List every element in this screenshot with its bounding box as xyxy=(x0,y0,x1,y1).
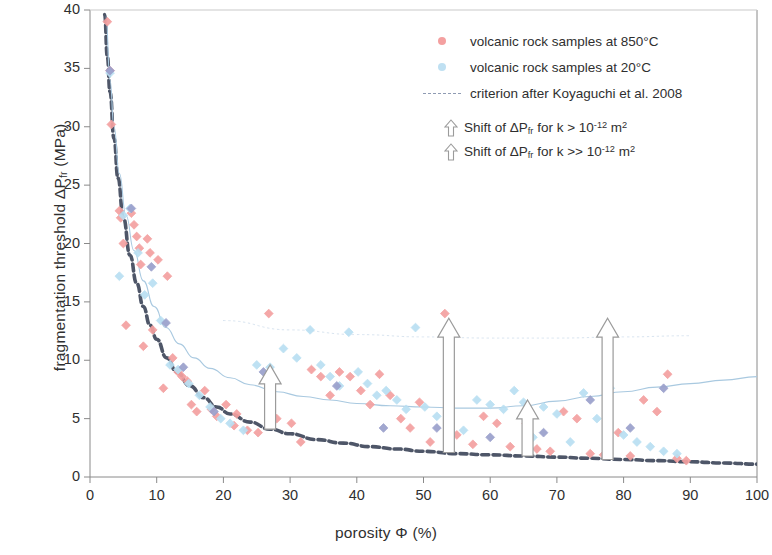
legend-item-label: criterion after Koyaguchi et al. 2008 xyxy=(468,86,682,101)
legend-dashed-line-icon xyxy=(423,93,461,94)
legend-arrow-exponent: -12 xyxy=(602,144,615,154)
x-tick-label: 10 xyxy=(132,487,182,503)
x-tick-label: 100 xyxy=(732,487,772,503)
legend-arrow-item[interactable]: Shift of ΔPfr for k >> 10-12 m2 xyxy=(438,140,756,164)
legend-arrow-suffix: m xyxy=(615,144,630,159)
legend-item[interactable]: volcanic rock samples at 850°C xyxy=(416,28,756,54)
y-axis-title-prefix: fragmentation threshold xyxy=(51,199,68,371)
legend-up-arrow-icon xyxy=(438,143,464,161)
legend-item-label: volcanic rock samples at 20°C xyxy=(468,60,651,75)
legend-arrow-label: Shift of ΔPfr for k >> 10-12 m2 xyxy=(464,144,635,160)
legend-arrow-middle: for k >> 10 xyxy=(533,144,601,159)
legend-arrow-exponent: -12 xyxy=(594,120,607,130)
legend-arrow-suffix: m xyxy=(607,120,622,135)
legend-arrow-middle: for k > 10 xyxy=(533,120,593,135)
x-axis-title-suffix: (%) xyxy=(408,524,437,541)
figure-container: 05101520253035400102030405060708090100 f… xyxy=(0,0,772,555)
legend-marker-key xyxy=(416,63,468,71)
legend-line-key xyxy=(416,93,468,94)
x-axis-title-prefix: porosity xyxy=(335,524,395,541)
legend-marker-key xyxy=(416,37,468,45)
y-axis-title: fragmentation threshold ΔPfr (MPa) xyxy=(51,37,70,457)
legend-arrow-item[interactable]: Shift of ΔPfr for k > 10-12 m2 xyxy=(438,116,756,140)
legend-arrow-prefix: Shift of xyxy=(464,120,510,135)
legend-arrow-unit-exponent: 2 xyxy=(622,120,627,130)
y-tick-label: 0 xyxy=(36,468,80,484)
chart-legend: volcanic rock samples at 850°Cvolcanic r… xyxy=(416,28,756,164)
legend-arrow-unit-exponent: 2 xyxy=(630,144,635,154)
x-axis-title: porosity Φ (%) xyxy=(0,524,772,542)
legend-dot-icon xyxy=(438,37,446,45)
x-tick-label: 40 xyxy=(332,487,382,503)
legend-sample-group: volcanic rock samples at 850°Cvolcanic r… xyxy=(416,28,756,106)
legend-arrow-group: Shift of ΔPfr for k > 10-12 m2Shift of Δ… xyxy=(416,116,756,164)
y-axis-title-symbol: ΔP xyxy=(51,178,68,199)
legend-arrow-symbol: ΔP xyxy=(510,120,528,135)
legend-dot-icon xyxy=(438,63,446,71)
legend-item[interactable]: volcanic rock samples at 20°C xyxy=(416,54,756,80)
x-tick-label: 70 xyxy=(532,487,582,503)
x-tick-label: 30 xyxy=(265,487,315,503)
legend-item-label: volcanic rock samples at 850°C xyxy=(468,34,658,49)
x-tick-label: 60 xyxy=(465,487,515,503)
y-axis-title-suffix: (MPa) xyxy=(51,124,68,172)
x-tick-label: 20 xyxy=(198,487,248,503)
legend-arrow-symbol: ΔP xyxy=(510,144,528,159)
x-tick-label: 0 xyxy=(65,487,115,503)
legend-item[interactable]: criterion after Koyaguchi et al. 2008 xyxy=(416,80,756,106)
legend-arrow-label: Shift of ΔPfr for k > 10-12 m2 xyxy=(464,120,627,136)
legend-arrow-prefix: Shift of xyxy=(464,144,510,159)
x-tick-label: 90 xyxy=(665,487,715,503)
legend-up-arrow-icon xyxy=(438,119,464,137)
x-tick-label: 50 xyxy=(399,487,449,503)
x-axis-title-symbol: Φ xyxy=(395,524,408,541)
y-axis-title-subscript: fr xyxy=(57,171,69,178)
y-tick-label: 40 xyxy=(36,1,80,17)
x-tick-label: 80 xyxy=(599,487,649,503)
